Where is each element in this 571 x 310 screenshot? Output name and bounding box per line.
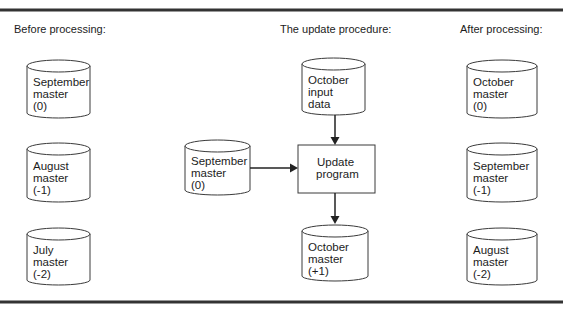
- heading-after-processing: After processing:: [460, 23, 543, 35]
- cylinder-after-august-master: August master (-2): [467, 228, 537, 285]
- svg-text:Update: Update: [317, 156, 354, 168]
- svg-text:September: September: [191, 155, 247, 167]
- svg-text:master: master: [473, 172, 508, 184]
- svg-text:(-1): (-1): [473, 184, 491, 196]
- svg-text:master: master: [191, 167, 226, 179]
- svg-text:(-2): (-2): [473, 268, 491, 280]
- svg-text:(+1): (+1): [308, 265, 329, 277]
- cylinder-before-august-master: August master (-1): [27, 143, 90, 202]
- update-program-box: Update program: [298, 145, 375, 193]
- svg-text:(-2): (-2): [33, 268, 51, 280]
- svg-text:master: master: [308, 253, 343, 265]
- svg-text:(-1): (-1): [33, 184, 51, 196]
- svg-text:master: master: [33, 256, 68, 268]
- cylinder-before-september-master: September master (0): [27, 60, 90, 118]
- svg-text:master: master: [33, 88, 68, 100]
- arrowhead-icon: [290, 164, 298, 173]
- cylinder-before-july-master: July master (-2): [27, 228, 90, 285]
- arrowhead-icon: [331, 216, 340, 224]
- arrowhead-icon: [331, 137, 340, 145]
- svg-text:August: August: [33, 160, 70, 172]
- cylinder-after-october-master: October master (0): [467, 60, 537, 118]
- svg-text:July: July: [33, 244, 54, 256]
- svg-text:(0): (0): [473, 100, 487, 112]
- cylinder-procedure-september-master: September master (0): [185, 140, 250, 195]
- heading-before-processing: Before processing:: [14, 23, 106, 35]
- svg-text:input: input: [308, 86, 334, 98]
- svg-text:data: data: [308, 98, 331, 110]
- svg-text:September: September: [473, 160, 529, 172]
- svg-text:October: October: [308, 74, 349, 86]
- svg-text:(0): (0): [191, 179, 205, 191]
- svg-text:(0): (0): [33, 100, 47, 112]
- svg-text:August: August: [473, 244, 510, 256]
- svg-text:master: master: [33, 172, 68, 184]
- heading-update-procedure: The update procedure:: [280, 23, 391, 35]
- svg-text:program: program: [316, 168, 359, 180]
- cylinder-october-master-new: October master (+1): [302, 225, 368, 281]
- svg-text:October: October: [308, 241, 349, 253]
- svg-text:September: September: [33, 76, 89, 88]
- svg-text:master: master: [473, 256, 508, 268]
- arrow-input-to-program: [331, 115, 340, 145]
- cylinder-after-september-master: September master (-1): [467, 143, 537, 202]
- arrow-master-to-program: [250, 164, 298, 173]
- svg-text:October: October: [473, 76, 514, 88]
- cylinder-october-input-data: October input data: [302, 58, 365, 115]
- arrow-program-to-new-master: [331, 193, 340, 224]
- svg-text:master: master: [473, 88, 508, 100]
- generation-data-group-diagram: Before processing: The update procedure:…: [0, 0, 571, 310]
